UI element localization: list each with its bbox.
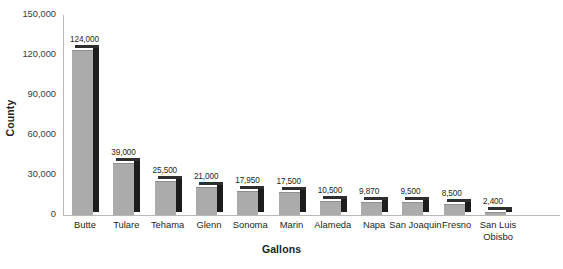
y-tick-label: 0 (0, 209, 56, 219)
y-tick-label: 60,000 (0, 129, 56, 139)
bar: 39,000 (113, 160, 140, 215)
bar-value-label: 17,500 (277, 177, 301, 186)
bar-side-face (341, 198, 347, 212)
bar-front-face (402, 202, 423, 215)
bar-value-label: 39,000 (111, 148, 135, 157)
bar-top-face (447, 199, 471, 202)
bar-value-label: 2,400 (483, 197, 503, 206)
bar-front-face (485, 212, 506, 215)
plot-area: 124,00039,00025,50021,00017,95017,50010,… (63, 15, 560, 215)
bar-value-label: 17,950 (235, 176, 259, 185)
bar-side-face (465, 201, 471, 212)
bar: 124,000 (72, 47, 99, 215)
bar-value-label: 25,500 (153, 166, 177, 175)
bar-top-face (282, 187, 306, 190)
x-axis-line (63, 215, 560, 216)
y-tick-label: 90,000 (0, 89, 56, 99)
bar: 9,870 (361, 199, 388, 215)
bar-top-face (158, 176, 182, 179)
x-category-label: San Luis Obisbo (458, 219, 538, 242)
bar-side-face (93, 47, 99, 212)
y-tick-label: 30,000 (0, 169, 56, 179)
bar-front-face (361, 202, 382, 215)
x-axis-title: Gallons (0, 243, 563, 255)
bar-front-face (320, 201, 341, 215)
bar-value-label: 10,500 (318, 186, 342, 195)
bar-top-face (75, 45, 99, 48)
bar-top-face (199, 182, 223, 185)
bar: 10,500 (320, 198, 347, 215)
bar-side-face (134, 160, 140, 212)
bar: 8,500 (444, 201, 471, 215)
bar-top-face (116, 158, 140, 161)
bar-value-label: 9,870 (359, 187, 379, 196)
bar-front-face (72, 50, 93, 215)
bar-side-face (382, 199, 388, 212)
bar-top-face (405, 197, 429, 200)
bar-front-face (279, 192, 300, 215)
bar-chart: County Gallons 030,00060,00090,000120,00… (0, 0, 563, 269)
bar-value-label: 8,500 (442, 189, 462, 198)
bar: 9,500 (402, 199, 429, 215)
bar-side-face (423, 199, 429, 212)
bar-value-label: 21,000 (194, 172, 218, 181)
bar: 17,500 (279, 189, 306, 215)
bar-top-face (364, 197, 388, 200)
bar-front-face (155, 181, 176, 215)
bar-front-face (237, 191, 258, 215)
bar-side-face (300, 189, 306, 212)
bar: 2,400 (485, 209, 512, 215)
bar-value-label: 9,500 (400, 187, 420, 196)
bar-value-label: 124,000 (70, 35, 99, 44)
bar-side-face (258, 188, 264, 212)
bar-top-face (240, 186, 264, 189)
bar-front-face (113, 163, 134, 215)
bar-top-face (488, 207, 512, 210)
bar: 21,000 (196, 184, 223, 215)
bar-front-face (444, 204, 465, 215)
bar: 17,950 (237, 188, 264, 215)
y-axis-line (63, 15, 64, 215)
bar: 25,500 (155, 178, 182, 215)
y-tick-label: 120,000 (0, 49, 56, 59)
bar-side-face (217, 184, 223, 212)
bar-top-face (323, 196, 347, 199)
bar-side-face (176, 178, 182, 212)
bar-front-face (196, 187, 217, 215)
y-tick-label: 150,000 (0, 9, 56, 19)
